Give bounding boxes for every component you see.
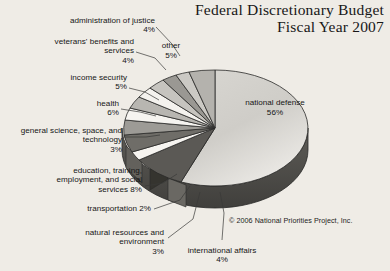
label-other-pct: 5% <box>151 51 191 61</box>
label-administration-of-justice-name: administration of justice <box>70 16 155 25</box>
copyright-notice: © 2006 National Priorities Project, Inc. <box>229 216 353 225</box>
label-health-name: health <box>97 99 119 108</box>
label-general-science-name-1: general science, space, and <box>21 126 122 135</box>
label-other: other 5% <box>151 41 191 60</box>
label-general-science-pct: 3% <box>3 145 122 154</box>
label-natural-resources: natural resources and environment 3% <box>50 228 164 256</box>
label-international-affairs: international affairs 4% <box>174 246 270 265</box>
label-income-security: income security 5% <box>38 73 127 92</box>
label-natural-resources-name-2: environment <box>50 237 164 246</box>
label-administration-of-justice: administration of justice 4% <box>28 16 155 35</box>
label-education-name-2: employment, and social <box>18 175 142 184</box>
label-natural-resources-name-1: natural resources and <box>85 228 164 237</box>
label-income-security-name: income security <box>70 73 127 82</box>
label-general-science-name-2: technology <box>3 135 122 144</box>
label-education-name-3: services 8% <box>18 185 142 194</box>
label-health: health 6% <box>62 99 119 118</box>
label-international-affairs-pct: 4% <box>174 255 270 264</box>
label-administration-of-justice-pct: 4% <box>28 25 155 34</box>
label-education-name-1: education, training, <box>73 166 142 175</box>
pie-slices <box>124 70 308 186</box>
label-general-science: general science, space, and technology 3… <box>3 126 122 154</box>
label-transportation-name: transportation 2% <box>87 204 151 213</box>
label-international-affairs-name: international affairs <box>188 246 257 255</box>
label-veterans: veterans' benefits and services 4% <box>22 37 134 65</box>
label-veterans-name-2: services <box>22 46 134 55</box>
label-national-defense: national defense 56% <box>229 98 321 117</box>
label-health-pct: 6% <box>62 108 119 117</box>
label-national-defense-name: national defense <box>245 98 305 107</box>
label-education: education, training, employment, and soc… <box>18 166 142 194</box>
label-transportation: transportation 2% <box>58 204 151 213</box>
label-national-defense-pct: 56% <box>229 108 321 118</box>
label-veterans-pct: 4% <box>22 56 134 65</box>
chart-figure: Federal Discretionary Budget Fiscal Year… <box>0 0 390 271</box>
label-other-name: other <box>162 41 181 50</box>
label-natural-resources-pct: 3% <box>50 247 164 256</box>
label-veterans-name-1: veterans' benefits and <box>55 37 134 46</box>
label-income-security-pct: 5% <box>38 82 127 91</box>
